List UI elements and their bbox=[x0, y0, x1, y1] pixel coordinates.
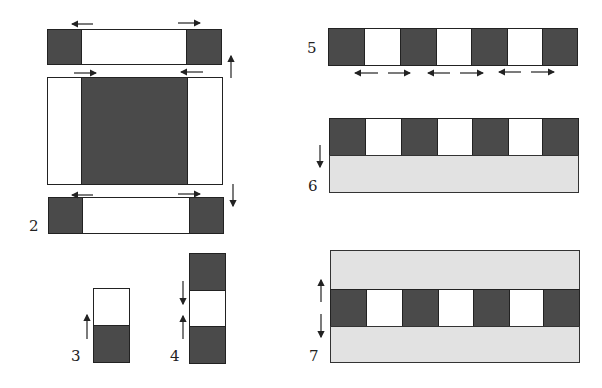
arrows-layer bbox=[0, 0, 602, 388]
